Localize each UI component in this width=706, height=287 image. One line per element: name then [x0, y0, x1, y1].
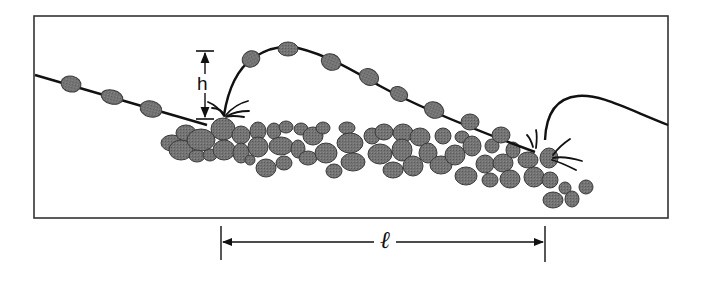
saltating-grain	[319, 51, 344, 73]
saltation-diagram	[0, 0, 706, 287]
impact-splash-left	[208, 101, 249, 117]
height-label: h	[196, 74, 209, 93]
saltating-grain	[278, 42, 298, 56]
saltating-grain	[461, 114, 479, 130]
saltating-grain	[100, 88, 125, 107]
saltating-grain	[422, 99, 447, 121]
saltating-grain	[388, 84, 410, 104]
length-label: ℓ	[374, 228, 396, 252]
diagram-frame	[34, 16, 668, 218]
saltating-grain	[492, 127, 510, 143]
trajectory-next-hop	[545, 96, 668, 140]
saltating-grain	[60, 74, 83, 94]
saltating-grain	[138, 99, 163, 120]
trajectory-incoming	[35, 74, 207, 125]
sand-bed	[161, 118, 593, 208]
